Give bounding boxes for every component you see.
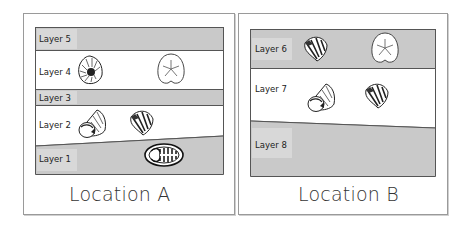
layer-3-label: Layer 3 [39, 93, 71, 103]
sand-dollar-fossil-icon [158, 54, 184, 83]
layer-7 [251, 69, 436, 129]
layer-5-label: Layer 5 [39, 34, 71, 44]
layer-2-label: Layer 2 [39, 120, 71, 130]
sand-dollar-fossil-icon [372, 33, 398, 62]
layer-1-label: Layer 1 [39, 154, 71, 164]
layer-6-label: Layer 6 [255, 44, 287, 54]
layer-4-label: Layer 4 [39, 67, 71, 77]
trilobite-fossil-icon [145, 144, 183, 166]
location-a-label: Location A [69, 183, 170, 205]
layer-7-label: Layer 7 [255, 84, 287, 94]
location-b-label: Location B [298, 183, 399, 205]
layer-8-label: Layer 8 [255, 140, 287, 150]
